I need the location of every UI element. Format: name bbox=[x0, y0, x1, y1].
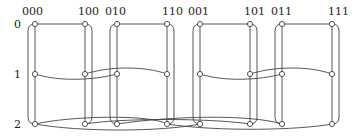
node-110-0 bbox=[164, 21, 169, 26]
node-100-2 bbox=[82, 121, 87, 126]
nodes-row1 bbox=[32, 71, 334, 76]
node-001-0 bbox=[197, 21, 202, 26]
node-101-1 bbox=[247, 71, 252, 76]
node-010-2 bbox=[114, 121, 119, 126]
column-label-100: 100 bbox=[78, 5, 99, 18]
node-111-1 bbox=[329, 71, 334, 76]
node-100-1 bbox=[82, 71, 87, 76]
node-110-1 bbox=[164, 71, 169, 76]
outer-loops bbox=[28, 24, 339, 124]
column-label-101: 101 bbox=[244, 5, 265, 18]
butterfly-network-diagram: 000 100 010 110 001 101 011 111 0 1 2 bbox=[0, 0, 361, 139]
node-111-2 bbox=[329, 121, 334, 126]
node-000-2 bbox=[32, 121, 37, 126]
node-000-0 bbox=[32, 21, 37, 26]
node-010-1 bbox=[114, 71, 119, 76]
node-110-2 bbox=[164, 121, 169, 126]
column-label-001: 001 bbox=[188, 5, 209, 18]
node-000-1 bbox=[32, 71, 37, 76]
node-010-0 bbox=[114, 21, 119, 26]
node-011-2 bbox=[279, 121, 284, 126]
column-label-010: 010 bbox=[105, 5, 126, 18]
row-label-0: 0 bbox=[14, 18, 21, 31]
row1-edges bbox=[35, 68, 332, 79]
column-label-000: 000 bbox=[22, 5, 43, 18]
node-101-2 bbox=[247, 121, 252, 126]
vertical-edges bbox=[35, 24, 332, 124]
node-100-0 bbox=[82, 21, 87, 26]
node-011-1 bbox=[279, 71, 284, 76]
node-001-1 bbox=[197, 71, 202, 76]
node-101-0 bbox=[247, 21, 252, 26]
node-001-2 bbox=[197, 121, 202, 126]
node-011-0 bbox=[279, 21, 284, 26]
row-label-1: 1 bbox=[14, 68, 21, 81]
row-label-2: 2 bbox=[14, 118, 21, 131]
column-label-110: 110 bbox=[162, 5, 183, 18]
column-label-111: 111 bbox=[328, 5, 349, 18]
column-label-011: 011 bbox=[271, 5, 292, 18]
row2-edges bbox=[35, 117, 332, 130]
node-111-0 bbox=[329, 21, 334, 26]
